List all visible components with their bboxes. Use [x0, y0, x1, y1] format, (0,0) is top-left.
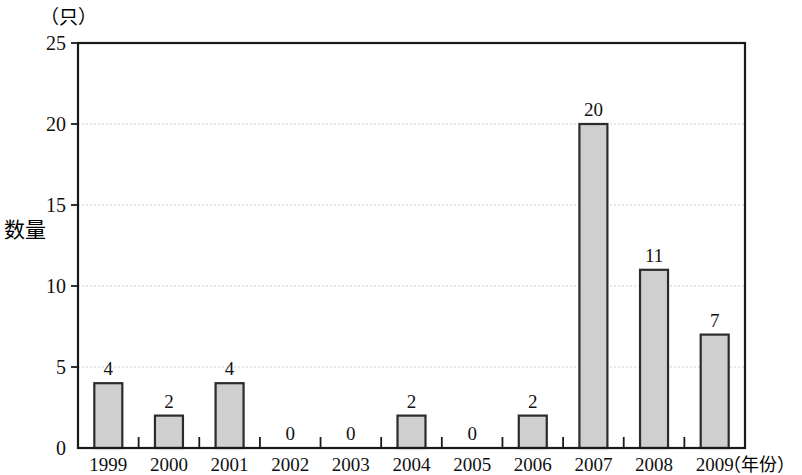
bar-value-label: 4: [225, 358, 235, 379]
bar-value-label: 20: [584, 99, 603, 120]
bar-value-label: 0: [285, 423, 295, 444]
bar: [216, 383, 244, 448]
x-axis-tick-label: 2005: [453, 454, 491, 475]
x-axis-tick-label: 2009: [696, 454, 734, 475]
x-axis-tick-label: 2007: [574, 454, 612, 475]
bar-value-label: 2: [164, 391, 174, 412]
x-axis-tick-label: 2004: [393, 454, 432, 475]
y-axis-tick-labels: 0510152025: [46, 32, 66, 459]
bar-value-label: 11: [645, 245, 663, 266]
y-axis-tick-label: 25: [46, 32, 66, 54]
bar-value-label: 7: [710, 310, 720, 331]
x-axis-tick-label: 1999: [89, 454, 127, 475]
bar-value-label: 0: [346, 423, 356, 444]
bar-value-labels: 4240020220117: [104, 99, 720, 444]
bar: [94, 383, 122, 448]
bar-value-label: 4: [104, 358, 114, 379]
bar-value-label: 2: [528, 391, 538, 412]
x-axis-tick-label: 2003: [332, 454, 370, 475]
x-axis-tick-label: 2000: [150, 454, 188, 475]
bar: [579, 124, 607, 448]
bar: [640, 270, 668, 448]
bar-value-label: 2: [407, 391, 417, 412]
y-axis-tick-label: 5: [56, 356, 66, 378]
bar: [701, 335, 729, 448]
x-axis-tick-label: 2008: [635, 454, 673, 475]
y-axis-tick-label: 20: [46, 113, 66, 135]
bar-chart: （只） 数量 （年份） 0510152025 4240020220117 199…: [0, 0, 802, 475]
bar: [155, 416, 183, 448]
y-axis-tick-label: 0: [56, 437, 66, 459]
plot-area: 0510152025 4240020220117 199920002001200…: [0, 0, 802, 475]
y-axis-tick-label: 15: [46, 194, 66, 216]
x-axis-tick-label: 2006: [514, 454, 552, 475]
x-axis-tick-labels: 1999200020012002200320042005200620072008…: [89, 454, 733, 475]
x-axis-tick-label: 2002: [271, 454, 309, 475]
bar: [519, 416, 547, 448]
bar-value-label: 0: [467, 423, 477, 444]
bar: [398, 416, 426, 448]
y-axis-tick-label: 10: [46, 275, 66, 297]
x-axis-tick-label: 2001: [211, 454, 249, 475]
